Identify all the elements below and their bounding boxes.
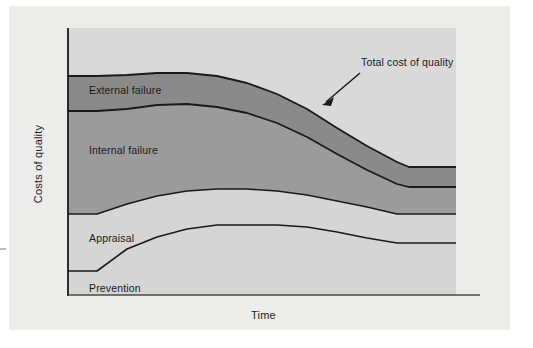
costs-of-quality-area-chart [9, 6, 510, 330]
y-axis-title: Costs of quality [32, 109, 44, 219]
band-label-internal-failure: Internal failure [89, 144, 158, 156]
figure-root: Costs of quality Time External failure I… [0, 0, 533, 348]
page-edge-marker [0, 248, 6, 250]
band-label-appraisal: Appraisal [89, 232, 134, 244]
band-label-prevention: Prevention [89, 282, 141, 294]
annotation-total-cost-of-quality: Total cost of quality [361, 56, 453, 68]
band-label-external-failure: External failure [89, 84, 161, 96]
figure-panel: Costs of quality Time External failure I… [9, 6, 510, 330]
x-axis-title: Time [251, 309, 276, 321]
